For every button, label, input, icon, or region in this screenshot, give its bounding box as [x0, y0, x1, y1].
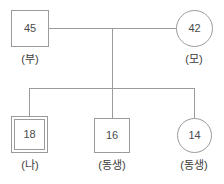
sibling-drop-sibling-2 [194, 88, 195, 118]
descent-line [112, 28, 113, 89]
caption-self: (나) [21, 160, 38, 171]
age-label-mother: 42 [188, 23, 200, 34]
caption-sibling-2: (동생) [180, 160, 207, 171]
person-node-mother[interactable]: 42 [176, 10, 213, 47]
proband-inner-border: 18 [14, 119, 45, 150]
age-label-self: 18 [23, 129, 35, 140]
person-node-sibling-2[interactable]: 14 [177, 118, 212, 153]
person-node-sibling-1[interactable]: 16 [94, 118, 130, 153]
caption-sibling-1: (동생) [98, 160, 125, 171]
caption-father: (부) [21, 54, 38, 65]
age-label-father: 45 [24, 23, 36, 34]
person-node-self[interactable]: 18 [11, 116, 48, 153]
age-label-sibling-2: 14 [188, 130, 200, 141]
sibling-drop-self [29, 88, 30, 116]
sibling-drop-sibling-1 [112, 88, 113, 118]
age-label-sibling-1: 16 [106, 130, 118, 141]
person-node-father[interactable]: 45 [11, 10, 49, 47]
caption-mother: (모) [185, 54, 202, 65]
pedigree-diagram: 45 (부) 42 (모) 18 (나) 16 (동생) 14 (동생) [0, 0, 224, 184]
